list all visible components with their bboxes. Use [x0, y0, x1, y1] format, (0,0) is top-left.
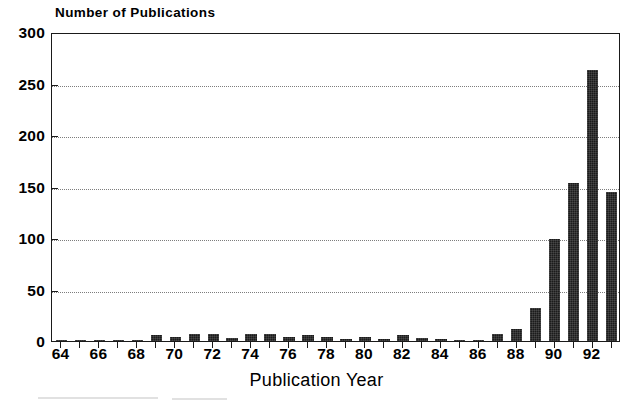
y-tick-mark: [51, 136, 58, 137]
bar: [606, 192, 617, 341]
bar: [397, 335, 408, 341]
bar: [378, 339, 389, 341]
x-tick-label: 68: [128, 345, 146, 363]
bar: [568, 183, 579, 341]
x-tick-label: 74: [241, 345, 259, 363]
bar: [75, 340, 86, 341]
gridline: [52, 189, 619, 191]
bar: [245, 334, 256, 341]
y-tick-label: 150: [19, 179, 45, 197]
bar: [359, 337, 370, 341]
bar: [151, 335, 162, 341]
x-tick-label: 84: [431, 345, 449, 363]
gridline: [52, 240, 619, 242]
bar: [94, 340, 105, 341]
y-tick-mark: [51, 188, 58, 189]
bar: [56, 340, 67, 341]
x-tick-label: 88: [507, 345, 525, 363]
bar: [283, 337, 294, 341]
x-tick-label: 66: [90, 345, 108, 363]
bar: [302, 335, 313, 341]
y-tick-mark: [51, 85, 58, 86]
bar: [208, 334, 219, 341]
plot-frame: [51, 33, 620, 342]
x-axis-title: Publication Year: [0, 370, 633, 391]
bar: [321, 337, 332, 341]
bar: [530, 308, 541, 341]
bar: [473, 340, 484, 341]
x-tick-label: 64: [52, 345, 70, 363]
bar: [170, 337, 181, 341]
gridline: [52, 86, 619, 88]
y-tick-label: 300: [19, 24, 45, 42]
bar: [549, 239, 560, 341]
y-tick-mark: [51, 239, 58, 240]
bar: [511, 329, 522, 341]
y-tick-label: 50: [27, 282, 45, 300]
bar: [416, 338, 427, 341]
x-tick-label: 76: [279, 345, 297, 363]
bar: [340, 339, 351, 341]
scan-artifact: [38, 397, 158, 399]
bar: [113, 340, 124, 341]
bar: [189, 334, 200, 341]
bar: [435, 339, 446, 341]
x-axis-tick-labels: 646668707274767880828486889092: [0, 345, 633, 369]
y-tick-label: 250: [19, 76, 45, 94]
x-tick-label: 78: [317, 345, 335, 363]
gridline: [52, 137, 619, 139]
y-tick-mark: [51, 291, 58, 292]
publications-bar-chart: Number of Publications 05010015020025030…: [0, 0, 633, 410]
bar: [587, 70, 598, 341]
gridline: [52, 292, 619, 294]
bar: [492, 334, 503, 341]
y-axis-title: Number of Publications: [55, 5, 215, 20]
y-tick-label: 100: [19, 230, 45, 248]
x-tick-label: 86: [469, 345, 487, 363]
x-tick-label: 90: [545, 345, 563, 363]
y-tick-label: 200: [19, 127, 45, 145]
bar: [132, 340, 143, 341]
x-tick-label: 82: [393, 345, 411, 363]
x-tick-label: 72: [203, 345, 221, 363]
bar: [226, 338, 237, 341]
x-tick-label: 70: [165, 345, 183, 363]
scan-artifact: [172, 398, 227, 400]
x-tick-label: 92: [583, 345, 601, 363]
x-tick-label: 80: [355, 345, 373, 363]
plot-area: [52, 34, 619, 341]
bar: [264, 334, 275, 341]
bar: [454, 340, 465, 341]
